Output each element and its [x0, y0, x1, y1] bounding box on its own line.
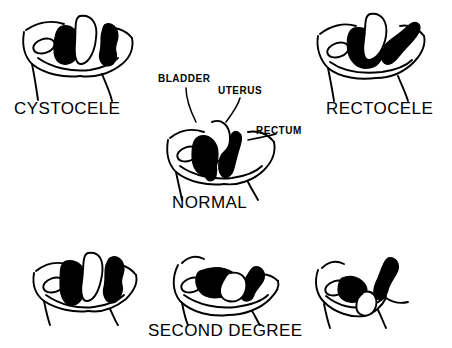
caption-cystocele: CYSTOCELE	[14, 100, 120, 117]
diagram-rectocele	[312, 8, 440, 103]
annotation-uterus: UTERUS	[218, 86, 262, 96]
caption-normal: NORMAL	[172, 194, 247, 211]
annotation-bladder: BLADDER	[158, 74, 210, 84]
caption-second-degree: SECOND DEGREE	[148, 322, 302, 339]
diagram-second-degree-center	[168, 245, 286, 325]
annotation-rectum: RECTUM	[256, 126, 302, 136]
prolapse-figure: CYSTOCELE RECTOCELE	[0, 0, 452, 348]
caption-rectocele: RECTOCELE	[326, 100, 433, 117]
diagram-second-degree-right	[312, 248, 416, 328]
diagram-second-degree-left	[28, 243, 146, 325]
diagram-normal	[160, 108, 285, 200]
diagram-cystocele	[18, 8, 148, 103]
